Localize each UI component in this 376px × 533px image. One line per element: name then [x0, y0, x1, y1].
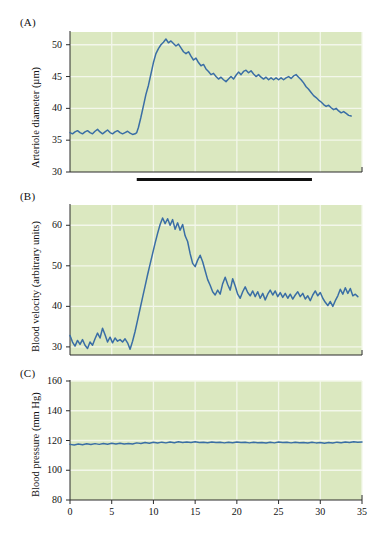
y-tick-label: 50	[36, 261, 62, 271]
panel-letter-1: (A)	[20, 16, 36, 28]
stimulus-bar	[137, 178, 312, 181]
y-tick-label: 160	[36, 376, 62, 386]
plot-background	[70, 32, 362, 172]
x-tick-label: 30	[308, 507, 332, 517]
y-tick-label: 45	[36, 72, 62, 82]
y-tick-label: 120	[36, 436, 62, 446]
y-tick-label: 60	[36, 220, 62, 230]
y-tick-label: 140	[36, 406, 62, 416]
x-tick-label: 15	[183, 507, 207, 517]
y-axis-label-1: Arteriole diameter (µm)	[30, 67, 41, 168]
figure-container: (A)Arteriole diameter (µm)5045403530(B)B…	[0, 0, 376, 533]
x-tick-label: 25	[267, 507, 291, 517]
y-tick-label: 30	[36, 342, 62, 352]
y-tick-label: 35	[36, 135, 62, 145]
x-tick-label: 0	[58, 507, 82, 517]
plot-area-panel-2	[62, 203, 376, 383]
y-tick-label: 40	[36, 301, 62, 311]
y-tick-label: 80	[36, 495, 62, 505]
y-tick-label: 50	[36, 40, 62, 50]
x-tick-label: 10	[141, 507, 165, 517]
panel-letter-2: (B)	[20, 190, 35, 202]
x-tick-label: 35	[350, 507, 374, 517]
y-axis-label-2: Blood velocity (arbitrary units)	[30, 221, 41, 352]
y-tick-label: 30	[36, 167, 62, 177]
y-tick-label: 40	[36, 103, 62, 113]
x-tick-label: 5	[100, 507, 124, 517]
y-tick-label: 100	[36, 465, 62, 475]
panel-letter-3: (C)	[20, 367, 35, 379]
x-tick-label: 20	[225, 507, 249, 517]
plot-background	[70, 205, 362, 355]
plot-area-panel-1	[62, 30, 376, 200]
